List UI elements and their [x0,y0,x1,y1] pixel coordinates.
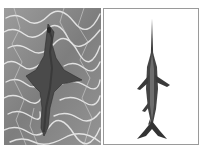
swordfish-image [104,9,198,144]
guitarfish-photo-panel [4,8,101,145]
guitarfish-image [4,8,101,145]
swordfish-illustration-panel [103,8,199,145]
